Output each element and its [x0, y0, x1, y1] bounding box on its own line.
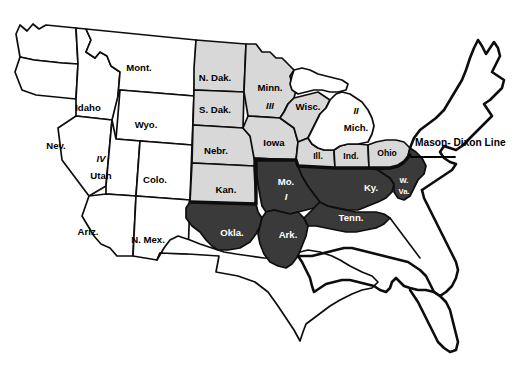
label-nebraska: Nebr.	[204, 145, 228, 156]
label-kansas: Kan.	[216, 184, 237, 195]
label-arizona: Ariz.	[78, 226, 99, 237]
label-illinois: Ill.	[313, 151, 323, 161]
label-michigan: Mich.	[344, 122, 369, 133]
label-south-dakota: S. Dak.	[199, 104, 231, 115]
label-west-virginia-line2: Va.	[399, 187, 410, 196]
region-numeral-IV: IV	[97, 153, 107, 164]
region-numeral-II: II	[353, 105, 359, 116]
label-missouri: Mo.	[278, 176, 295, 187]
state-colorado	[136, 141, 192, 200]
label-new-mexico: N. Mex.	[131, 234, 165, 245]
region-numeral-III: III	[266, 100, 274, 111]
label-oklahoma: Okla.	[220, 227, 243, 238]
label-colorado: Colo.	[143, 174, 167, 185]
map-canvas: Mason- Dixon Line Mont. Idaho Wyo. Nev. …	[0, 0, 528, 368]
label-ohio: Ohio	[377, 148, 397, 158]
label-nevada: Nev.	[46, 140, 66, 151]
label-north-dakota: N. Dak.	[199, 72, 232, 83]
label-wisconsin: Wisc.	[296, 101, 321, 112]
state-wyoming	[116, 90, 194, 145]
label-arkansas: Ark.	[279, 229, 298, 240]
label-tennessee: Tenn.	[339, 212, 364, 223]
label-minnesota: Minn.	[257, 82, 282, 93]
label-kentucky: Ky.	[364, 182, 378, 193]
label-iowa: Iowa	[263, 137, 285, 148]
label-idaho: Idaho	[75, 102, 101, 113]
mason-dixon-label: Mason- Dixon Line	[415, 137, 506, 148]
label-indiana: Ind.	[343, 151, 358, 161]
label-montana: Mont.	[126, 62, 152, 73]
us-region-map: Mason- Dixon Line Mont. Idaho Wyo. Nev. …	[0, 0, 528, 368]
label-wyoming: Wyo.	[135, 119, 158, 130]
region-numeral-I: I	[285, 191, 288, 202]
state-north-dakota	[194, 40, 246, 92]
label-utah: Utah	[90, 170, 111, 181]
label-west-virginia-line1: W.	[400, 176, 409, 185]
